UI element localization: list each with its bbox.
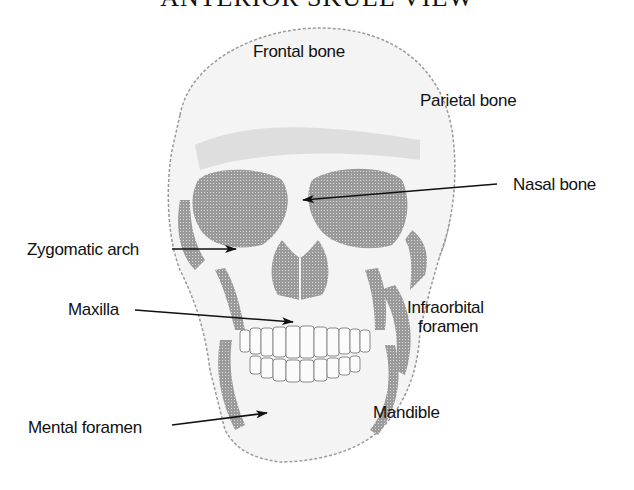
label-infraorbital-foramen-line1: Infraorbital: [407, 298, 484, 317]
label-infraorbital-foramen-line2: foramen: [418, 317, 478, 336]
label-parietal-bone: Parietal bone: [420, 91, 516, 110]
label-nasal-bone: Nasal bone: [513, 175, 596, 194]
label-frontal-bone: Frontal bone: [253, 42, 345, 61]
label-maxilla: Maxilla: [68, 300, 119, 319]
label-mental-foramen: Mental foramen: [28, 418, 142, 437]
label-mandible: Mandible: [373, 403, 440, 422]
label-zygomatic-arch: Zygomatic arch: [27, 240, 139, 259]
